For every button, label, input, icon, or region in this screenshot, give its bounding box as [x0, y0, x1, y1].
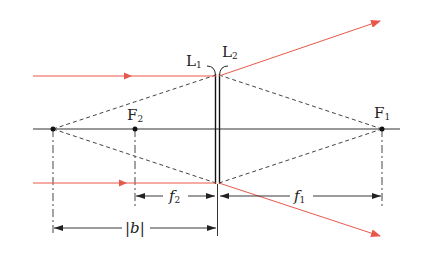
label-f2: F2: [127, 106, 143, 124]
focus-f2-point: [133, 127, 138, 132]
label-dim-f1: f1: [293, 187, 305, 205]
l1-leader: [207, 66, 216, 75]
focus-f1-point: [380, 127, 385, 132]
label-dim-f2: f2: [168, 187, 180, 205]
lens-diagram: L1 L2 F2 F1 f2 f1 |b|: [0, 0, 422, 253]
virtual-focus-point: [51, 127, 56, 132]
lens-pair: [216, 74, 220, 236]
label-l2: L2: [222, 43, 238, 61]
outgoing-ray-top: [219, 21, 380, 76]
arrow-bottom-in: [119, 180, 127, 187]
label-dim-b: |b|: [125, 219, 145, 237]
label-l1: L1: [186, 52, 202, 70]
label-f1: F1: [374, 104, 390, 122]
arrow-top-in: [124, 73, 132, 80]
